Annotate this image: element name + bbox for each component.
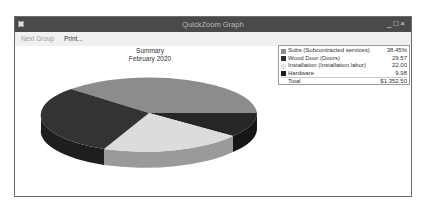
legend-row-installation: Installation (Installation labor) 22.00 [281, 62, 407, 70]
legend-label: Wood Door (Doors) [288, 55, 340, 63]
legend-value: 38.45% [387, 47, 407, 55]
legend-total-label: Total [288, 78, 301, 86]
legend-row-hardware: Hardware 9.98 [281, 70, 407, 78]
legend-swatch [281, 49, 286, 54]
legend-swatch [281, 56, 286, 61]
legend-label: Hardware [288, 70, 314, 78]
legend-swatch [281, 64, 286, 69]
legend-label: Subs (Subcontracted services) [288, 47, 370, 55]
legend-value: 9.98 [395, 70, 407, 78]
legend-label: Installation (Installation labor) [288, 62, 366, 70]
quickzoom-graph-window: QuickZoom Graph _□× Next Group Print... … [14, 16, 412, 197]
legend-value: 29.57 [392, 55, 407, 63]
window-title: QuickZoom Graph [15, 20, 411, 29]
legend-row-total: Total $1,352.50 [281, 77, 407, 86]
close-icon[interactable]: × [400, 19, 407, 28]
next-group-button[interactable]: Next Group [19, 35, 56, 42]
print-button[interactable]: Print... [62, 35, 85, 42]
legend-row-subs: Subs (Subcontracted services) 38.45% [281, 47, 407, 55]
legend-value: 22.00 [392, 62, 407, 70]
legend-swatch [281, 71, 286, 76]
chart-area: Summary February 2020 Subs (Subcontracte… [15, 46, 411, 196]
chart-legend: Subs (Subcontracted services) 38.45% Woo… [278, 45, 410, 85]
window-controls: _□× [387, 19, 407, 28]
title-bar[interactable]: QuickZoom Graph _□× [15, 17, 411, 32]
legend-row-wood-door: Wood Door (Doors) 29.57 [281, 55, 407, 63]
legend-total-value: $1,352.50 [380, 78, 407, 86]
